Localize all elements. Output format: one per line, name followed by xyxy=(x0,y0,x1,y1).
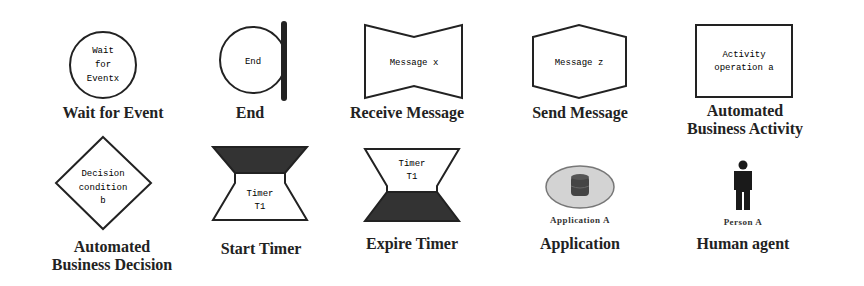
receive-message-icon: Message x xyxy=(364,24,464,100)
svg-text:End: End xyxy=(245,57,261,67)
person-icon xyxy=(730,160,756,212)
svg-text:T1: T1 xyxy=(255,202,266,212)
svg-text:for: for xyxy=(95,60,111,70)
end-circle-bar-icon: End xyxy=(218,22,290,102)
svg-text:Message z: Message z xyxy=(555,58,604,68)
caption-automated-business-activity: Automated Business Activity xyxy=(687,102,803,138)
activity-rectangle-icon: Activity operation a xyxy=(695,24,793,99)
caption-wait-for-event: Wait for Event xyxy=(62,104,163,122)
end-symbol: End xyxy=(218,22,290,102)
send-message-symbol: Message z xyxy=(532,24,628,100)
svg-text:Decision: Decision xyxy=(81,169,124,179)
svg-text:Timer: Timer xyxy=(398,159,425,169)
caption-end: End xyxy=(236,104,264,122)
receive-message-symbol: Message x xyxy=(364,24,464,100)
send-message-icon: Message z xyxy=(532,24,628,100)
caption-human-agent: Human agent xyxy=(697,235,790,253)
caption-start-timer: Start Timer xyxy=(221,240,302,258)
svg-text:Message x: Message x xyxy=(390,58,439,68)
human-agent-symbol xyxy=(730,160,756,212)
application-symbol xyxy=(544,164,616,210)
svg-text:condition: condition xyxy=(79,183,128,193)
caption-automated-business-decision: Automated Business Decision xyxy=(52,238,172,274)
sublabel-person-a: Person A xyxy=(724,217,763,227)
svg-text:b: b xyxy=(100,196,105,206)
svg-text:Wait: Wait xyxy=(92,46,114,56)
caption-application: Application xyxy=(540,235,620,253)
automated-business-activity-symbol: Activity operation a xyxy=(695,24,793,99)
svg-text:Activity: Activity xyxy=(722,50,766,60)
decision-diamond-icon: Decision condition b xyxy=(54,136,154,232)
svg-text:operation a: operation a xyxy=(714,63,774,73)
automated-business-decision-symbol: Decision condition b xyxy=(54,136,154,232)
start-timer-hourglass-icon: Timer T1 xyxy=(212,146,310,222)
application-database-icon xyxy=(544,164,616,210)
circle-event-icon: Wait for Eventx xyxy=(68,30,138,100)
sublabel-application-a: Application A xyxy=(550,215,610,225)
expire-timer-hourglass-icon: Timer T1 xyxy=(364,148,462,224)
svg-text:Eventx: Eventx xyxy=(87,74,119,84)
wait-for-event-symbol: Wait for Eventx xyxy=(68,30,138,100)
caption-send-message: Send Message xyxy=(532,104,628,122)
svg-text:T1: T1 xyxy=(407,172,418,182)
caption-receive-message: Receive Message xyxy=(350,104,464,122)
svg-text:Timer: Timer xyxy=(246,189,273,199)
caption-expire-timer: Expire Timer xyxy=(366,235,458,253)
expire-timer-symbol: Timer T1 xyxy=(364,148,462,224)
start-timer-symbol: Timer T1 xyxy=(212,146,310,222)
